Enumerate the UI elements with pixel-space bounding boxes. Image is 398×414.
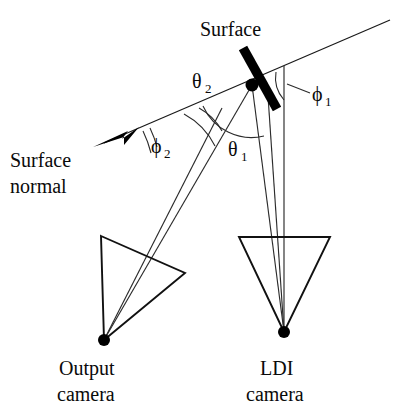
leader-phi-1 [287, 84, 310, 93]
ray-ldi-camera-b [268, 96, 284, 332]
label-theta-2-subscript: 2 [205, 81, 212, 96]
label-theta-1: θ [228, 138, 238, 160]
ray-output-camera-b [104, 108, 222, 340]
surface-point-dot [246, 79, 259, 92]
surface-normal-arrowhead [93, 127, 139, 147]
label-phi-1-subscript: 1 [325, 94, 332, 109]
label-phi-1: ϕ [312, 83, 323, 106]
arc-phi-1 [276, 72, 284, 100]
label-output-camera-line1: Output [59, 357, 115, 380]
ray-ldi-camera-a [252, 85, 284, 332]
label-surface-normal-line1: Surface [10, 149, 71, 171]
label-surface-normal-line2: normal [10, 175, 67, 197]
output-camera-apex-dot [98, 334, 110, 346]
label-output-camera-line2: camera [57, 383, 115, 405]
label-theta-2: θ [192, 70, 202, 92]
label-surface: Surface [200, 18, 261, 40]
arc-phi-2-outer [143, 131, 151, 153]
label-phi-2: ϕ [151, 135, 162, 158]
diagram-canvas: Surface Surface normal θ 2 θ 1 ϕ 2 ϕ 1 O… [0, 0, 398, 414]
surface-patch-bar [243, 48, 277, 109]
ldi-camera-apex-dot [278, 326, 290, 338]
optics-geometry-figure: Surface Surface normal θ 2 θ 1 ϕ 2 ϕ 1 O… [0, 0, 398, 414]
label-phi-2-subscript: 2 [164, 146, 171, 161]
label-ldi-camera-line1: LDI [260, 357, 293, 379]
ray-output-camera-a [104, 85, 252, 340]
label-ldi-camera-line2: camera [246, 383, 304, 405]
label-theta-1-subscript: 1 [241, 149, 248, 164]
